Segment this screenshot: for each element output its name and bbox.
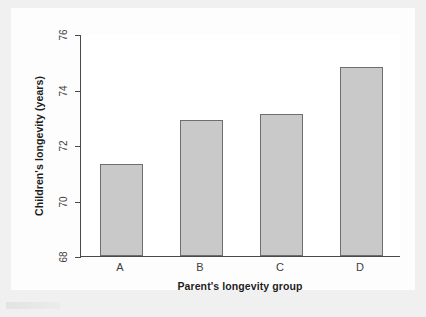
chart-panel: Children's longevity (years) 6870727476 … bbox=[11, 8, 415, 290]
y-axis-tick-label: 68 bbox=[55, 248, 73, 266]
bar bbox=[100, 164, 143, 256]
y-axis-tick-label: 70 bbox=[55, 193, 73, 211]
bar bbox=[180, 120, 223, 256]
plot-area: 6870727476 bbox=[80, 35, 400, 257]
figure: Children's longevity (years) 6870727476 … bbox=[0, 0, 426, 317]
y-axis-tick-mark bbox=[75, 146, 81, 147]
y-axis-title-text: Children's longevity (years) bbox=[33, 76, 45, 216]
x-axis-title: Parent's longevity group bbox=[80, 280, 400, 292]
y-axis-tick-mark bbox=[75, 257, 81, 258]
y-axis-tick-label: 74 bbox=[55, 82, 73, 100]
x-axis-tick-label: B bbox=[196, 261, 203, 273]
y-axis-tick-mark bbox=[75, 91, 81, 92]
x-axis-tick-label: D bbox=[356, 261, 364, 273]
bar bbox=[260, 114, 303, 256]
y-axis-tick-mark bbox=[75, 202, 81, 203]
x-axis-tick-label: C bbox=[276, 261, 284, 273]
y-axis-title: Children's longevity (years) bbox=[32, 35, 46, 257]
bar bbox=[340, 67, 383, 256]
y-axis-tick-label: 72 bbox=[55, 137, 73, 155]
y-axis-tick-mark bbox=[75, 35, 81, 36]
x-axis-tick-label: A bbox=[116, 261, 123, 273]
y-axis-tick-label: 76 bbox=[55, 26, 73, 44]
page-artifact bbox=[6, 302, 60, 309]
